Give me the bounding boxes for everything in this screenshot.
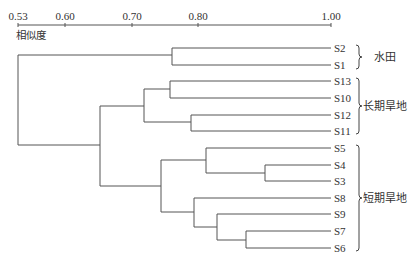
group-label-paddy: 水田 (374, 51, 396, 64)
brace-icon (356, 78, 362, 134)
tick-label: 0.60 (55, 10, 75, 22)
similarity-axis: 0.53 0.60 0.70 0.80 1.00 相似度 (8, 10, 341, 41)
leaf-label: S9 (334, 208, 346, 220)
leaf-label: S8 (334, 192, 346, 204)
group-label-short-term-upland: 短期旱地 (363, 191, 407, 205)
dendrogram-branches (18, 48, 331, 248)
tick-label: 0.53 (8, 10, 28, 22)
group-label-long-term-upland: 长期旱地 (363, 100, 407, 113)
group-braces: 水田 长期旱地 短期旱地 (356, 45, 407, 251)
tick-label: 0.70 (122, 10, 142, 22)
leaf-label: S11 (334, 125, 351, 137)
brace-icon (356, 45, 362, 69)
tick-label: 1.00 (321, 10, 341, 22)
leaf-label: S3 (334, 175, 346, 187)
leaf-label: S1 (334, 59, 346, 71)
axis-title: 相似度 (16, 29, 47, 41)
tick-label: 0.80 (188, 10, 208, 22)
leaf-label: S10 (334, 92, 352, 104)
leaf-label: S7 (334, 225, 346, 237)
leaf-labels: S2 S1 S13 S10 S12 S11 S5 S4 S3 S8 S9 S7 … (334, 42, 352, 254)
leaf-label: S2 (334, 42, 346, 54)
leaf-label: S4 (334, 159, 346, 171)
leaf-label: S5 (334, 142, 346, 154)
leaf-label: S6 (334, 242, 346, 254)
brace-icon (356, 145, 362, 251)
dendrogram-figure: 0.53 0.60 0.70 0.80 1.00 相似度 (0, 0, 412, 266)
leaf-label: S12 (334, 109, 351, 121)
leaf-label: S13 (334, 75, 352, 87)
